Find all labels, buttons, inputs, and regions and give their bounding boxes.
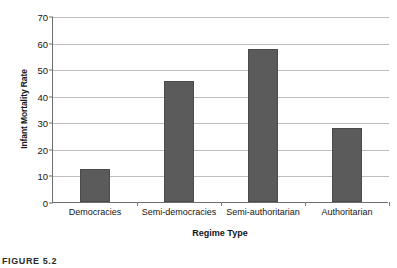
y-axis-tick-label: 0 — [43, 198, 48, 209]
y-axis-tick-mark — [49, 149, 53, 150]
y-axis-tick-label: 50 — [37, 65, 48, 76]
gridline — [53, 123, 389, 124]
bar — [164, 81, 194, 202]
y-axis-tick-mark — [49, 70, 53, 71]
y-axis-tick-label: 20 — [37, 144, 48, 155]
y-axis-tick-mark — [49, 43, 53, 44]
x-axis-tick-label: Semi-authoritarian — [226, 207, 300, 217]
x-axis-tick-mark — [305, 202, 306, 206]
x-axis-tick-label: Democracies — [69, 207, 122, 217]
x-axis-tick-mark — [137, 202, 138, 206]
y-axis-tick-mark — [49, 96, 53, 97]
plot-area: 010203040506070DemocraciesSemi-democraci… — [52, 17, 388, 203]
y-axis-tick-mark — [49, 176, 53, 177]
bar — [332, 128, 362, 202]
bar — [80, 169, 110, 202]
y-axis-tick-mark — [49, 203, 53, 204]
gridline — [53, 44, 389, 45]
figure-caption: FIGURE 5.2 — [2, 256, 57, 265]
y-axis-tick-label: 60 — [37, 38, 48, 49]
bar — [248, 49, 278, 202]
gridline — [53, 17, 389, 18]
x-axis-tick-label: Authoritarian — [321, 207, 372, 217]
x-axis-title: Regime Type — [52, 228, 388, 238]
y-axis-tick-label: 30 — [37, 118, 48, 129]
gridline — [53, 70, 389, 71]
y-axis-tick-label: 70 — [37, 12, 48, 23]
x-axis-tick-mark — [221, 202, 222, 206]
y-axis-title: Infant Mortality Rate — [19, 44, 29, 174]
figure-container: Infant Mortality Rate 010203040506070Dem… — [0, 0, 397, 268]
x-axis-tick-label: Semi-democracies — [142, 207, 217, 217]
y-axis-tick-mark — [49, 123, 53, 124]
y-axis-tick-mark — [49, 17, 53, 18]
y-axis-tick-label: 10 — [37, 171, 48, 182]
y-axis-tick-label: 40 — [37, 91, 48, 102]
x-axis-tick-mark — [389, 202, 390, 206]
gridline — [53, 97, 389, 98]
